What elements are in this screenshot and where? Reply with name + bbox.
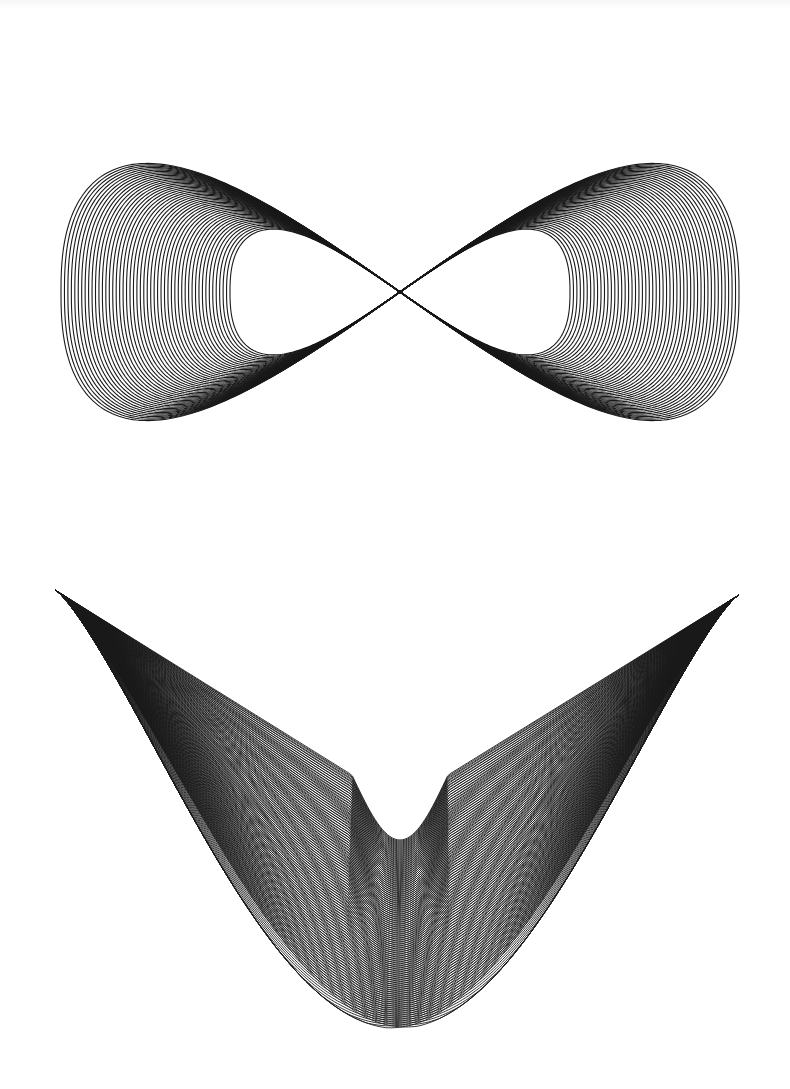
bowl-curve: [55, 590, 739, 992]
artwork-canvas: [0, 0, 790, 1089]
bowl-curve: [55, 590, 739, 978]
bowl-curve: [55, 590, 739, 959]
bowl-curve: [55, 590, 739, 985]
bowl-curve: [55, 590, 739, 971]
bowl-curve: [55, 590, 739, 952]
figure-eight-curve-family: [61, 163, 739, 420]
figure-eight-curve: [61, 163, 739, 420]
bowl-curve: [55, 590, 739, 931]
bowl-curve: [55, 590, 739, 945]
moire-bowl-curve-family: [55, 590, 739, 1028]
bowl-curve: [55, 590, 739, 999]
bowl-curve: [55, 590, 739, 938]
